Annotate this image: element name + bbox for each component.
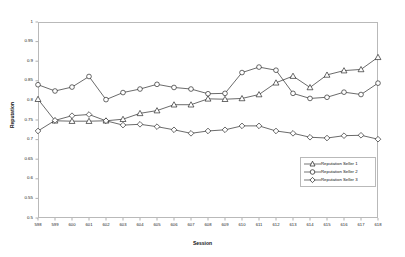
x-axis-tick-label: 605 xyxy=(148,223,166,227)
data-point xyxy=(375,54,381,59)
data-point xyxy=(307,134,313,140)
legend-item[interactable]: Reputation Seller 2 xyxy=(304,168,372,176)
data-point xyxy=(359,92,364,97)
series-3 xyxy=(35,112,381,142)
y-axis-title: Reputation xyxy=(9,85,15,145)
data-point xyxy=(205,96,211,101)
data-point xyxy=(290,73,296,78)
data-point xyxy=(120,122,126,128)
legend-label: Reputation Seller 2 xyxy=(321,170,358,174)
data-point xyxy=(35,128,41,134)
data-point xyxy=(87,74,92,79)
x-axis-tick-label: 602 xyxy=(97,223,115,227)
series-2 xyxy=(36,65,381,102)
x-axis-tick-label: 600 xyxy=(63,223,81,227)
data-point xyxy=(342,90,347,95)
data-point xyxy=(341,133,347,139)
data-point xyxy=(35,96,41,101)
legend-label: Reputation Seller 3 xyxy=(321,178,358,182)
data-point xyxy=(325,95,330,100)
data-point xyxy=(86,112,92,118)
x-axis-tick-label: 611 xyxy=(250,223,268,227)
y-axis-tick-label: 0.6 xyxy=(11,176,33,180)
data-point xyxy=(69,113,75,119)
x-axis-tick-label: 610 xyxy=(233,223,251,227)
data-point xyxy=(240,70,245,75)
data-point xyxy=(188,131,194,137)
y-axis-tick-label: 1 xyxy=(11,20,33,24)
x-axis-tick-label: 608 xyxy=(199,223,217,227)
series-1 xyxy=(35,54,381,123)
data-point xyxy=(53,89,58,94)
data-point xyxy=(154,124,160,130)
x-axis-tick-label: 616 xyxy=(335,223,353,227)
x-axis-tick-label: 613 xyxy=(284,223,302,227)
data-point xyxy=(223,91,228,96)
x-axis-tick-label: 604 xyxy=(131,223,149,227)
data-point xyxy=(36,82,41,87)
data-point xyxy=(189,87,194,92)
data-point xyxy=(307,85,313,90)
x-axis-tick-label: 612 xyxy=(267,223,285,227)
data-point xyxy=(205,128,211,134)
x-axis-tick-label: 603 xyxy=(114,223,132,227)
legend-marker-circle-icon xyxy=(304,168,321,176)
x-axis-tick-label: 614 xyxy=(301,223,319,227)
data-point xyxy=(375,136,381,142)
y-axis-tick-label: 0.9 xyxy=(11,59,33,63)
x-axis-tick-label: 607 xyxy=(182,223,200,227)
y-axis-tick-label: 0.95 xyxy=(11,39,33,43)
x-axis-tick-label: 609 xyxy=(216,223,234,227)
data-point xyxy=(274,68,279,73)
legend-item[interactable]: Reputation Seller 1 xyxy=(304,160,372,168)
data-point xyxy=(358,66,364,71)
data-point xyxy=(290,131,296,137)
data-point xyxy=(137,121,143,127)
chart-legend: Reputation Seller 1 Reputation Seller 2 … xyxy=(300,157,376,187)
x-axis-tick-label: 615 xyxy=(318,223,336,227)
data-point xyxy=(172,85,177,90)
data-point xyxy=(121,90,126,95)
y-axis-tick-label: 0.65 xyxy=(11,157,33,161)
data-series-layer xyxy=(35,54,381,142)
data-point xyxy=(273,128,279,134)
data-point xyxy=(257,65,262,70)
x-axis-tick-label: 599 xyxy=(46,223,64,227)
data-point xyxy=(138,87,143,92)
legend-marker-triangle-icon xyxy=(304,160,321,168)
x-axis-tick-label: 618 xyxy=(369,223,387,227)
data-point xyxy=(256,123,262,129)
x-axis-tick-label: 606 xyxy=(165,223,183,227)
data-point xyxy=(120,116,126,121)
data-point xyxy=(256,92,262,97)
data-point xyxy=(239,123,245,129)
x-axis-tick-label: 598 xyxy=(29,223,47,227)
data-point xyxy=(358,132,364,138)
data-point xyxy=(376,81,381,86)
data-point xyxy=(222,127,228,133)
data-point xyxy=(171,127,177,133)
data-point xyxy=(104,97,109,102)
chart-canvas xyxy=(0,0,405,257)
data-point xyxy=(291,91,296,96)
y-axis-tick-label: 0.85 xyxy=(11,78,33,82)
x-axis-title: Session xyxy=(0,240,405,246)
x-axis-tick-label: 601 xyxy=(80,223,98,227)
data-point xyxy=(155,82,160,87)
data-point xyxy=(70,85,75,90)
data-point xyxy=(273,80,279,85)
data-point xyxy=(154,108,160,113)
data-point xyxy=(206,91,211,96)
legend-label: Reputation Seller 1 xyxy=(321,162,358,166)
legend-marker-diamond-icon xyxy=(304,176,321,184)
y-axis-tick-label: 0.5 xyxy=(11,216,33,220)
data-point xyxy=(308,96,313,101)
x-axis-tick-label: 617 xyxy=(352,223,370,227)
chart-container: 10.950.90.850.80.750.70.650.60.550.5 598… xyxy=(0,0,405,257)
y-axis-tick-label: 0.55 xyxy=(11,196,33,200)
legend-item[interactable]: Reputation Seller 3 xyxy=(304,176,372,184)
data-point xyxy=(324,135,330,141)
